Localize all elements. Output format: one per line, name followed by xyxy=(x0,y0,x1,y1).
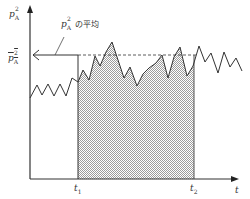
diagram-canvas xyxy=(0,0,250,199)
x-axis-arrow-icon xyxy=(231,176,239,182)
y-axis-arrow-icon xyxy=(27,5,33,13)
t2-label: t2 xyxy=(190,184,197,195)
mean-annotation: pA2の平均 xyxy=(61,18,99,31)
x-axis-label: t xyxy=(235,186,239,195)
mean-value-label: pA2 xyxy=(8,52,22,65)
annotation-leader-line xyxy=(55,37,64,55)
integral-area xyxy=(30,42,242,179)
t1-label: t1 xyxy=(74,184,81,195)
y-axis-label: pA2 xyxy=(9,8,23,21)
